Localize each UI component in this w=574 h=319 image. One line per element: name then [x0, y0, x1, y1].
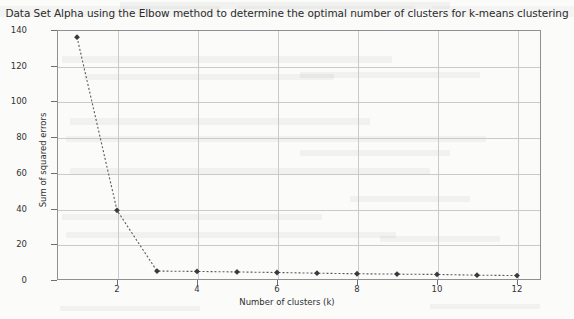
y-axis-tick-mark: [51, 137, 57, 138]
x-axis-tick-label: 4: [182, 284, 212, 294]
data-point-marker: [314, 270, 320, 276]
y-axis-tick-mark: [51, 280, 57, 281]
y-axis-tick-mark: [51, 66, 57, 67]
elbow-method-chart: Data Set Alpha using the Elbow method to…: [0, 0, 574, 319]
x-axis-tick-mark: [357, 280, 358, 285]
x-axis-tick-mark: [197, 280, 198, 285]
data-point-marker: [194, 269, 200, 275]
data-line: [77, 37, 517, 275]
data-point-marker: [474, 272, 480, 278]
data-point-marker: [434, 272, 440, 278]
data-point-marker: [394, 271, 400, 277]
x-axis-tick-label: 8: [342, 284, 372, 294]
y-axis-tick-label: 40: [0, 204, 27, 214]
data-point-marker: [74, 34, 80, 40]
x-axis-tick-label: 6: [262, 284, 292, 294]
y-axis-tick-mark: [51, 173, 57, 174]
x-axis-tick-mark: [277, 280, 278, 285]
data-point-marker: [234, 269, 240, 275]
x-axis-tick-label: 2: [102, 284, 132, 294]
x-axis-tick-mark: [517, 280, 518, 285]
y-axis-tick-label: 140: [0, 25, 27, 35]
y-axis-tick-label: 0: [0, 275, 27, 285]
data-point-marker: [354, 271, 360, 277]
data-point-marker: [114, 207, 120, 213]
data-point-marker: [154, 268, 160, 274]
x-axis-tick-mark: [117, 280, 118, 285]
y-axis-tick-label: 120: [0, 61, 27, 71]
data-series-layer: [0, 0, 574, 319]
data-point-marker: [514, 273, 520, 279]
y-axis-tick-label: 60: [0, 168, 27, 178]
x-axis-tick-label: 10: [422, 284, 452, 294]
y-axis-tick-mark: [51, 244, 57, 245]
data-point-marker: [274, 270, 280, 276]
y-axis-tick-label: 20: [0, 239, 27, 249]
y-axis-tick-mark: [51, 30, 57, 31]
y-axis-tick-mark: [51, 101, 57, 102]
x-axis-tick-label: 12: [502, 284, 532, 294]
y-axis-tick-label: 80: [0, 132, 27, 142]
y-axis-tick-mark: [51, 209, 57, 210]
x-axis-tick-mark: [437, 280, 438, 285]
y-axis-tick-label: 100: [0, 96, 27, 106]
